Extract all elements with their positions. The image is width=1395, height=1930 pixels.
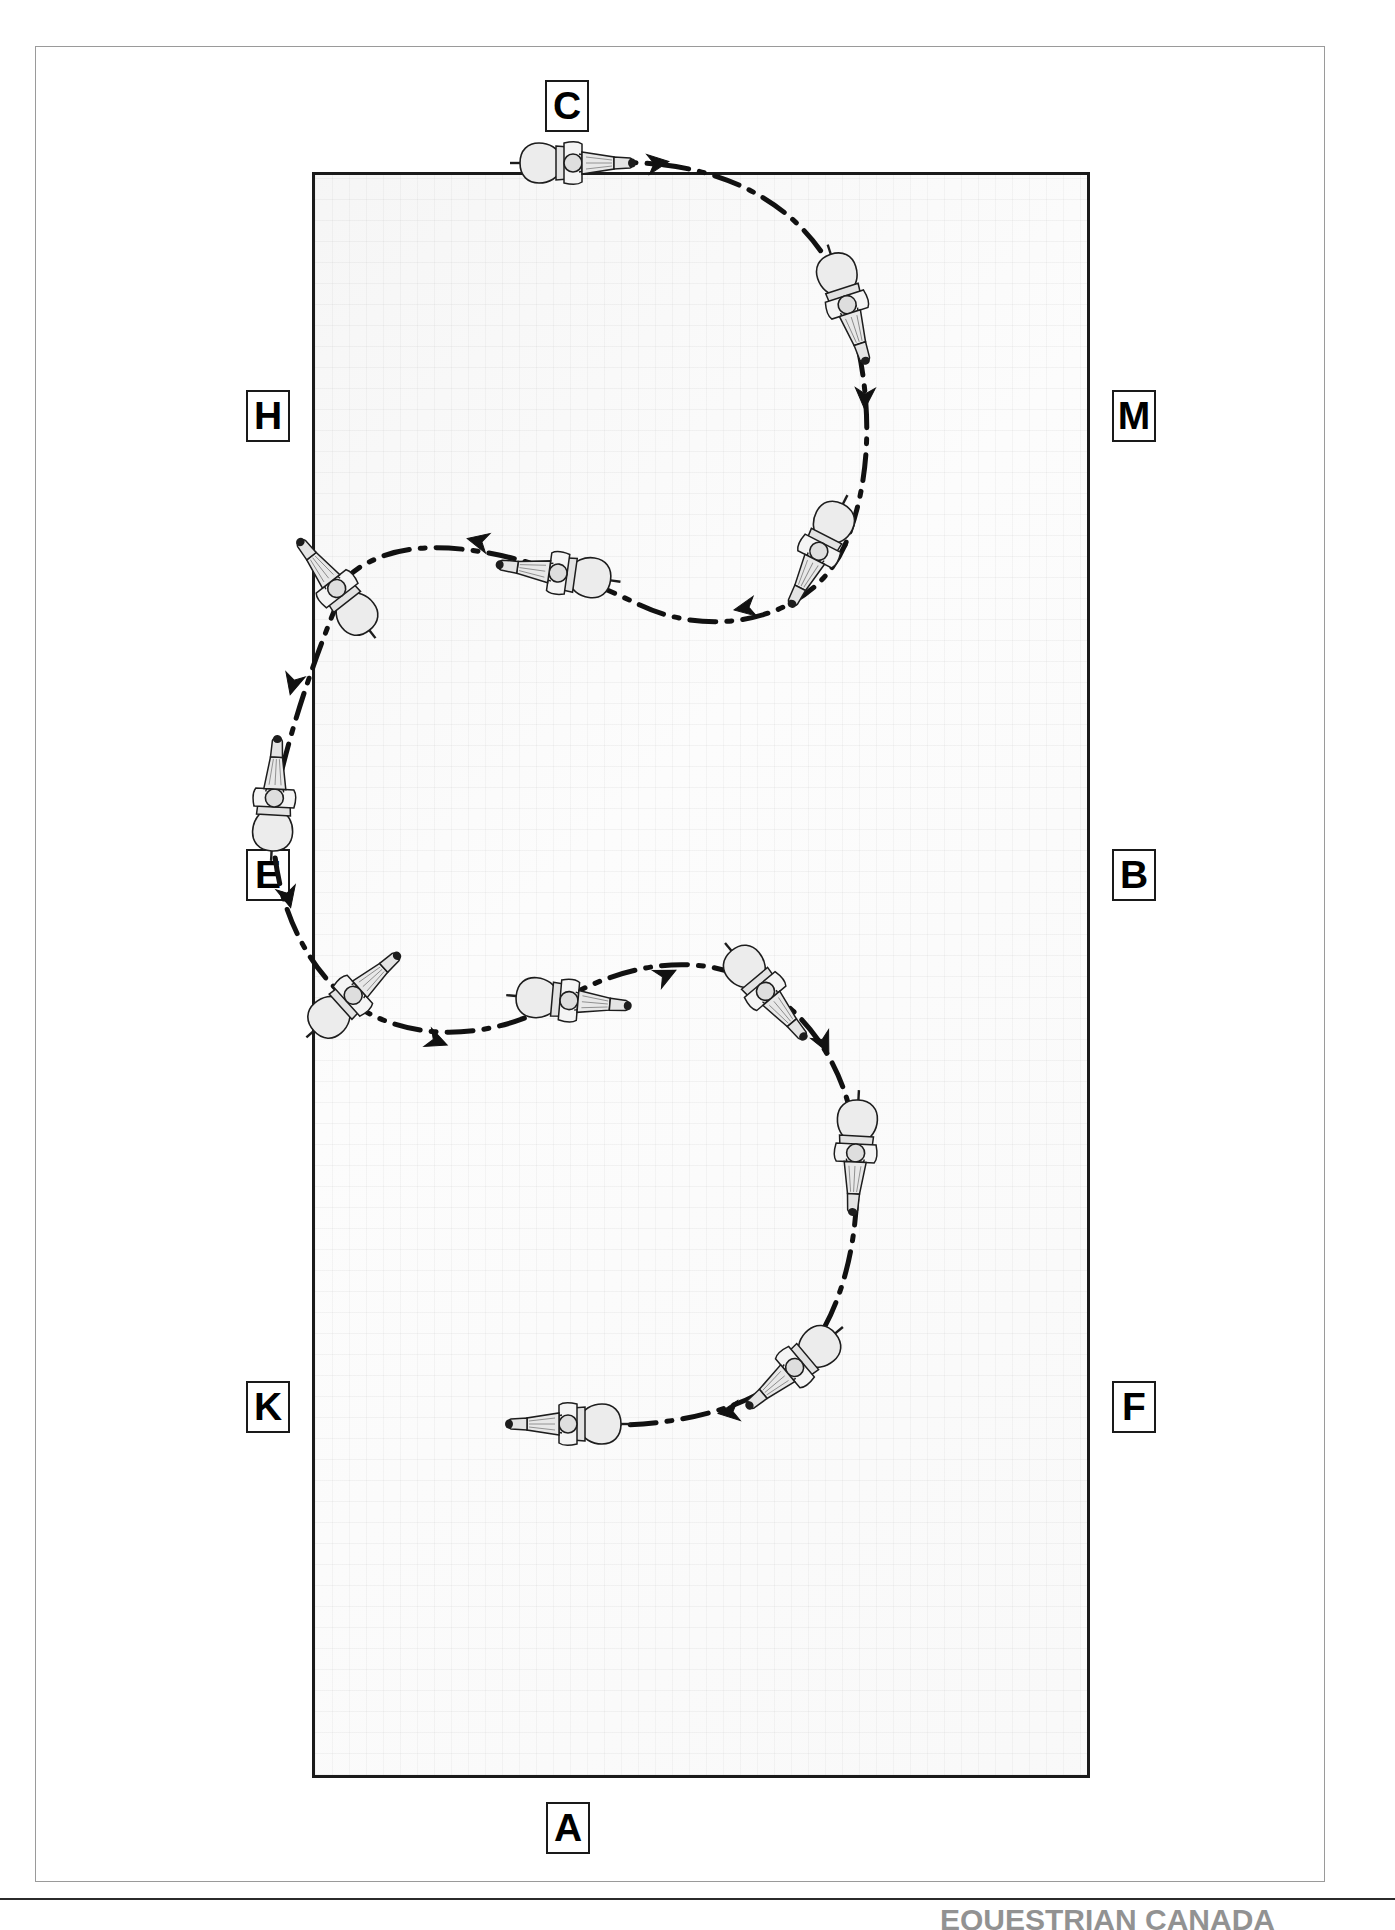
arena-marker-c-label: C	[553, 86, 581, 125]
arena-marker-k-label: K	[254, 1387, 282, 1426]
arena-marker-b-label: B	[1120, 855, 1148, 894]
arena-marker-e-label: E	[255, 855, 281, 894]
arena-marker-h[interactable]: H	[246, 390, 290, 442]
arena-marker-b[interactable]: B	[1112, 849, 1156, 901]
arena-marker-c[interactable]: C	[545, 80, 589, 132]
arena-marker-f[interactable]: F	[1112, 1381, 1156, 1433]
arena-marker-f-label: F	[1122, 1387, 1146, 1426]
arena-marker-a[interactable]: A	[546, 1802, 590, 1854]
arena-marker-a-label: A	[554, 1808, 582, 1847]
footer-divider	[0, 1898, 1395, 1900]
arena-marker-h-label: H	[254, 396, 282, 435]
arena-marker-k[interactable]: K	[246, 1381, 290, 1433]
arena-marker-m[interactable]: M	[1112, 390, 1156, 442]
arena-marker-e[interactable]: E	[246, 849, 290, 901]
dressage-arena	[312, 172, 1090, 1778]
page-root: C H M E B K F A	[0, 0, 1395, 1930]
footer-caption: EQUESTRIAN CANADA	[940, 1903, 1395, 1930]
arena-marker-m-label: M	[1118, 396, 1151, 435]
